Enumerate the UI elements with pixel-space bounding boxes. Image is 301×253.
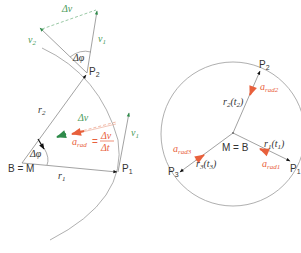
- center-label-right: M = B: [222, 142, 249, 153]
- left-diagram: Δv v2 v1 Δφ P2 r2 Δv v1 arad = Δv Δt Δφ: [8, 3, 139, 240]
- r3-t3-label: r3(t3): [196, 158, 217, 171]
- center-label-left: B = M: [8, 163, 34, 174]
- p2-label-right: P2: [259, 59, 270, 71]
- p1-label-left: P1: [122, 163, 133, 175]
- v1-top-label: v1: [98, 33, 106, 46]
- delta-v-top-label: Δv: [61, 3, 73, 14]
- delta-phi-center-label: Δφ: [29, 148, 42, 159]
- delta-v-mid-label: Δv: [77, 112, 89, 123]
- svg-text:Δt: Δt: [100, 142, 110, 153]
- svg-text:=: =: [92, 136, 98, 147]
- a-rad2-label: arad2: [260, 81, 279, 94]
- svg-text:Δv: Δv: [100, 130, 112, 141]
- circular-motion-diagram: Δv v2 v1 Δφ P2 r2 Δv v1 arad = Δv Δt Δφ: [0, 0, 301, 253]
- r1-vector: [22, 163, 117, 172]
- a-rad2-arrow: [250, 87, 253, 95]
- v2-label: v2: [28, 34, 36, 47]
- delta-phi-p2-label: Δφ: [72, 52, 85, 63]
- r2-label: r2: [38, 104, 46, 117]
- delta-v-green-arrow: [57, 134, 66, 137]
- v1-right-label: v1: [131, 127, 139, 140]
- angle-arc-center: [44, 148, 48, 165]
- r2-t2-label: r2(t2): [223, 96, 244, 109]
- center-point: [232, 132, 234, 134]
- p3-label-right: P3: [168, 166, 179, 178]
- p2-label: P2: [89, 66, 100, 78]
- right-diagram: P2 arad2 r2(t2) M = B r1(t1) arad1 P1 ar…: [161, 59, 301, 206]
- p1-label-right: P1: [290, 163, 301, 175]
- a-rad-arrow: [72, 131, 84, 134]
- svg-text:arad: arad: [72, 136, 87, 149]
- a-rad3-label: arad3: [173, 143, 192, 156]
- a-rad1-label: arad1: [262, 158, 280, 171]
- r1-t1-label: r1(t1): [264, 138, 285, 151]
- v1-vector-top: [87, 11, 97, 73]
- r1-label: r1: [58, 170, 65, 183]
